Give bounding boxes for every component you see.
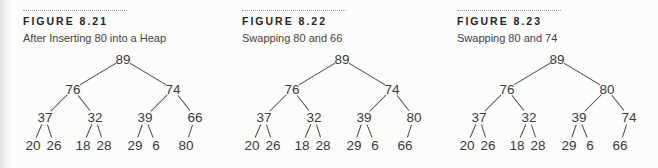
figure-caption: Swapping 80 and 66 — [242, 32, 450, 44]
tree-edge — [582, 125, 587, 137]
tree-edge — [470, 125, 475, 137]
tree-node-value: 32 — [87, 110, 102, 125]
tree-node-value: 18 — [294, 138, 309, 153]
tree-edge — [514, 63, 549, 84]
tree-node-value: 29 — [561, 138, 576, 153]
tree-edge — [305, 125, 310, 137]
tree-node-value: 37 — [471, 110, 486, 125]
tree-node-value: 6 — [371, 138, 379, 153]
tree-edge — [512, 96, 523, 111]
tree-node-value: 74 — [384, 82, 400, 97]
tree-node-value: 29 — [127, 138, 142, 153]
tree-node-value: 20 — [25, 138, 40, 153]
tree-node-value: 74 — [165, 82, 181, 97]
tree-edge — [317, 125, 321, 137]
figure-8-23: FIGURE 8.23 Swapping 80 and 74 897680373… — [457, 2, 658, 161]
tree-node-value: 6 — [586, 138, 594, 153]
tree-node-value: 80 — [406, 110, 421, 125]
tree-node-value: 28 — [315, 138, 330, 153]
tree-edge — [564, 63, 599, 84]
tree-edge — [623, 125, 627, 137]
heap-tree-diagram: 897680373239742026182829666 — [457, 49, 658, 161]
tree-node-value: 6 — [152, 138, 160, 153]
tree-node-value: 37 — [37, 110, 52, 125]
tree-edge — [297, 96, 308, 111]
figure-top-rule — [242, 10, 346, 11]
tree-edge — [80, 63, 115, 84]
figure-label: FIGURE 8.21 — [23, 15, 231, 27]
tree-edge — [178, 96, 189, 111]
tree-edge — [367, 125, 372, 137]
tree-edge — [270, 95, 286, 111]
tree-edge — [148, 125, 153, 137]
tree-edge — [86, 125, 91, 137]
tree-edge — [151, 95, 167, 111]
tree-node-value: 66 — [397, 138, 412, 153]
figure-8-21: FIGURE 8.21 After Inserting 80 into a He… — [23, 2, 231, 161]
tree-node-value: 66 — [187, 110, 202, 125]
tree-edge — [408, 125, 412, 137]
figure-8-22: FIGURE 8.22 Swapping 80 and 66 897674373… — [242, 2, 450, 161]
tree-edge — [572, 125, 576, 137]
tree-edge — [98, 125, 102, 137]
tree-edge — [78, 96, 89, 111]
tree-edge — [370, 95, 386, 111]
tree-node-value: 66 — [612, 138, 627, 153]
tree-node-value: 29 — [346, 138, 361, 153]
tree-edge — [299, 63, 334, 84]
tree-edge — [36, 125, 41, 137]
tree-node-value: 39 — [356, 110, 371, 125]
tree-node-value: 89 — [334, 52, 349, 67]
figure-top-rule — [457, 10, 561, 11]
tree-node-value: 89 — [115, 52, 130, 67]
figure-label: FIGURE 8.22 — [242, 15, 450, 27]
tree-edge — [189, 125, 193, 137]
tree-edge — [397, 96, 408, 111]
tree-node-value: 39 — [571, 110, 586, 125]
tree-edge — [349, 63, 384, 84]
tree-edge — [532, 125, 536, 137]
tree-node-value: 39 — [137, 110, 152, 125]
tree-node-value: 32 — [521, 110, 536, 125]
tree-edge — [255, 125, 260, 137]
tree-node-value: 37 — [256, 110, 271, 125]
heap-tree-diagram: 897674373239662026182829680 — [23, 49, 233, 161]
tree-node-value: 28 — [96, 138, 111, 153]
tree-node-value: 32 — [306, 110, 321, 125]
figure-caption: Swapping 80 and 74 — [457, 32, 658, 44]
tree-edge — [130, 63, 165, 84]
tree-edge — [48, 125, 52, 137]
tree-edge — [585, 95, 601, 111]
tree-node-value: 18 — [75, 138, 90, 153]
tree-node-value: 76 — [499, 82, 514, 97]
tree-node-value: 26 — [46, 138, 61, 153]
tree-node-value: 80 — [599, 82, 614, 97]
tree-edge — [357, 125, 361, 137]
tree-node-value: 28 — [530, 138, 545, 153]
tree-edge — [485, 95, 501, 111]
figure-label: FIGURE 8.23 — [457, 15, 658, 27]
page-edge-shading — [0, 0, 10, 168]
tree-edge — [482, 125, 486, 137]
tree-node-value: 18 — [509, 138, 524, 153]
tree-node-value: 26 — [480, 138, 495, 153]
tree-edge — [138, 125, 142, 137]
tree-node-value: 20 — [244, 138, 259, 153]
tree-edge — [51, 95, 67, 111]
tree-node-value: 89 — [549, 52, 564, 67]
tree-edge — [520, 125, 525, 137]
figure-top-rule — [23, 10, 127, 11]
tree-edge — [267, 125, 271, 137]
tree-node-value: 76 — [65, 82, 80, 97]
tree-node-value: 80 — [178, 138, 193, 153]
tree-node-value: 26 — [265, 138, 280, 153]
tree-node-value: 20 — [459, 138, 474, 153]
tree-edge — [612, 96, 623, 111]
tree-node-value: 74 — [621, 110, 637, 125]
figure-caption: After Inserting 80 into a Heap — [23, 32, 231, 44]
tree-node-value: 76 — [284, 82, 299, 97]
heap-tree-diagram: 897674373239802026182829666 — [242, 49, 452, 161]
